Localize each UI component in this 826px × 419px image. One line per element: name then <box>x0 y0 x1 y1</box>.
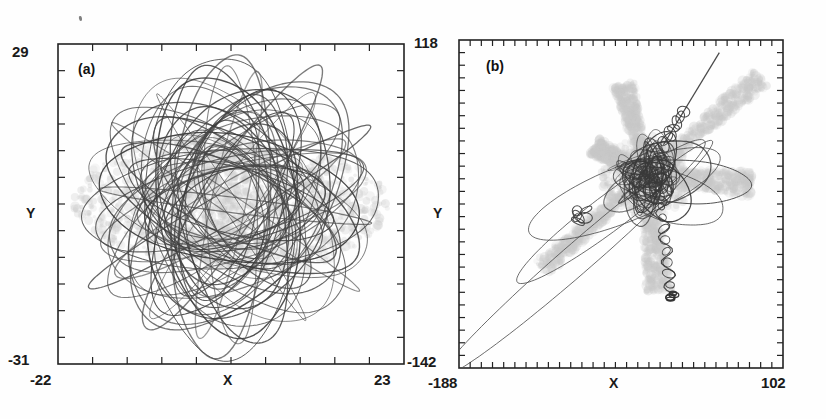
panel-a-y-axis-title: Y <box>26 205 35 221</box>
panel-b-y-min-label: -142 <box>407 354 436 369</box>
panel-b-x-min-label: -188 <box>428 375 457 390</box>
panel-b-tag: (b) <box>486 58 504 74</box>
panel-b: 118 -142 -188 102 Y X (b) <box>413 0 826 419</box>
figure-root: 29 -31 -22 23 Y X (a) 118 -142 -188 102 … <box>0 0 826 419</box>
panel-b-x-axis-title: X <box>609 375 618 391</box>
panel-b-y-max-label: 118 <box>414 35 438 50</box>
panel-b-plot <box>413 0 826 419</box>
panel-a: 29 -31 -22 23 Y X (a) <box>0 0 413 419</box>
panel-a-y-min-label: -31 <box>8 352 29 367</box>
panel-a-plot <box>0 0 413 419</box>
panel-a-y-max-label: 29 <box>12 44 28 59</box>
panel-a-x-axis-title: X <box>223 372 232 388</box>
panel-b-x-max-label: 102 <box>761 375 785 390</box>
panel-a-tag: (a) <box>78 61 95 77</box>
panel-a-x-max-label: 23 <box>374 372 390 387</box>
panel-a-x-min-label: -22 <box>30 372 51 387</box>
panel-b-y-axis-title: Y <box>433 205 442 221</box>
